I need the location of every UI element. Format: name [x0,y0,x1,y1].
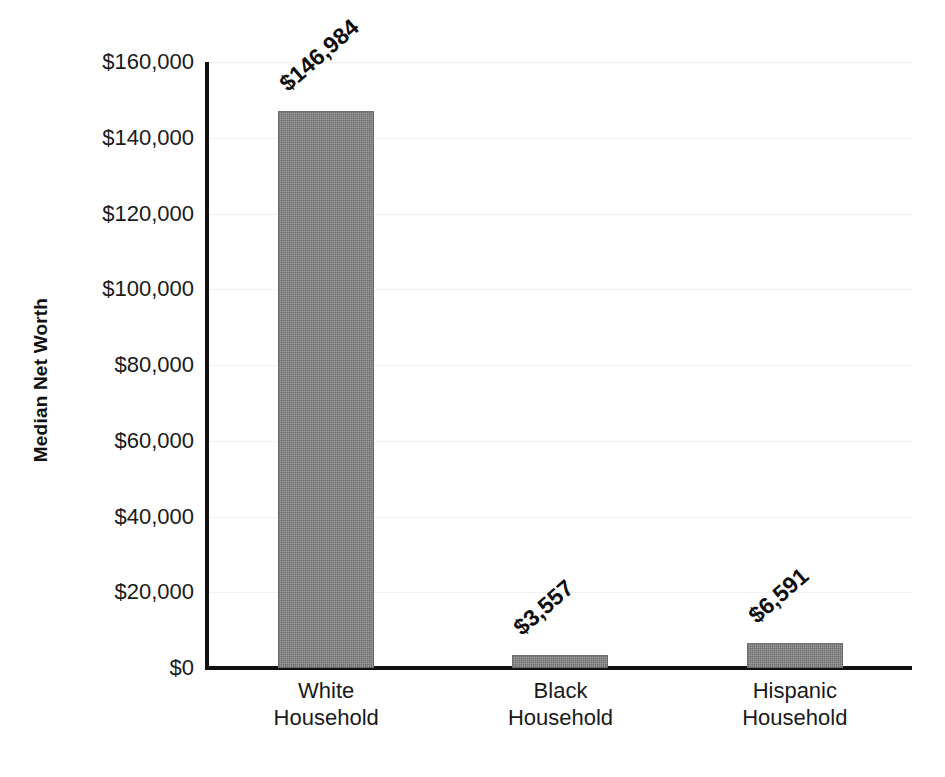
bar-value-label: $146,984 [274,14,364,97]
bar-value-label: $6,591 [743,563,814,630]
y-axis-tick-label: $120,000 [54,201,194,227]
x-axis-category-label: BlackHousehold [443,678,677,732]
y-axis-tick-label: $20,000 [54,579,194,605]
bar[interactable] [512,655,608,668]
category-label-line: Household [443,705,677,732]
bar-chart-figure: Median Net Worth $0$20,000$40,000$60,000… [0,0,945,777]
bar[interactable] [747,643,843,668]
category-label-line: White [209,678,443,705]
y-axis-tick-label: $0 [54,655,194,681]
bar-group: $146,984 [209,62,443,668]
bar-group: $3,557 [443,62,677,668]
bar-group: $6,591 [678,62,912,668]
bar[interactable] [278,111,374,668]
y-axis-tick-label: $40,000 [54,504,194,530]
plot-area: $146,984$3,557$6,591 [209,62,912,668]
y-axis-tick-label: $160,000 [54,49,194,75]
y-axis-tick-label: $100,000 [54,276,194,302]
y-axis-tick-label: $60,000 [54,428,194,454]
y-axis-tick-labels: $0$20,000$40,000$60,000$80,000$100,000$1… [52,0,194,777]
category-label-line: Household [678,705,912,732]
category-label-line: Hispanic [678,678,912,705]
bar-value-label: $3,557 [509,574,580,641]
x-axis-category-label: HispanicHousehold [678,678,912,732]
x-axis-category-label: WhiteHousehold [209,678,443,732]
category-label-line: Black [443,678,677,705]
y-axis-tick-label: $80,000 [54,352,194,378]
y-axis-tick-label: $140,000 [54,125,194,151]
category-label-line: Household [209,705,443,732]
